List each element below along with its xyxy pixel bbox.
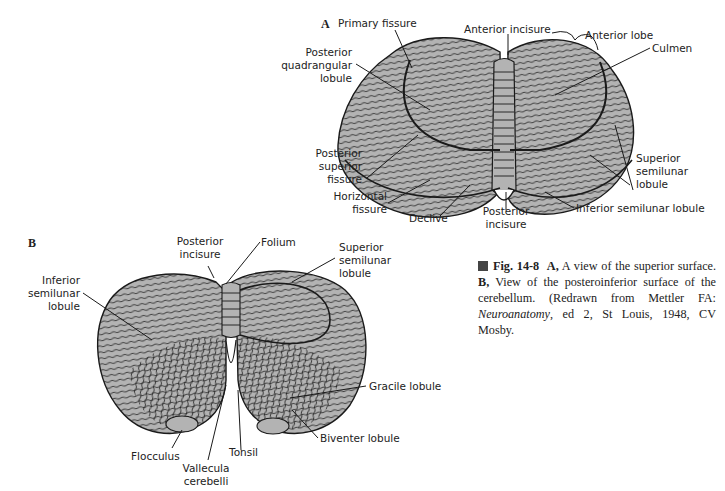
- caption-a-text: A view of the superior surface.: [559, 259, 716, 273]
- label-inferior-semilunar-lobule-a: Inferior semilunar lobule: [576, 202, 705, 215]
- caption-fig-label: Fig. 14-8: [493, 259, 539, 273]
- caption-marker-icon: [478, 261, 488, 271]
- caption-book-title: Neuroanatomy: [478, 307, 550, 321]
- caption-b-label: B,: [478, 275, 489, 289]
- caption-b-text: View of the posteroinferior surface of t…: [478, 275, 716, 305]
- label-posterior-quadrangular-lobule: Posterior quadrangular lobule: [278, 46, 352, 85]
- label-anterior-lobe: Anterior lobe: [585, 29, 653, 42]
- label-inferior-semilunar-lobule-b: Inferior semilunar lobule: [20, 274, 80, 313]
- label-folium: Folium: [261, 236, 296, 249]
- label-biventer-lobule: Biventer lobule: [320, 432, 400, 445]
- label-vallecula-cerebelli: Vallecula cerebelli: [176, 462, 236, 488]
- label-posterior-incisure-b: Posterior incisure: [172, 235, 228, 261]
- cerebellum-posteroinferior-view: [98, 271, 366, 434]
- label-tonsil: Tonsil: [229, 446, 258, 459]
- label-culmen: Culmen: [652, 42, 692, 55]
- figure-caption: Fig. 14-8 A, A view of the superior surf…: [478, 258, 716, 338]
- label-primary-fissure: Primary fissure: [338, 17, 417, 30]
- label-superior-semilunar-lobule-b: Superior semilunar lobule: [339, 241, 391, 280]
- label-anterior-incisure: Anterior incisure: [464, 23, 551, 36]
- panel-a-letter: A: [321, 17, 330, 32]
- label-flocculus: Flocculus: [131, 450, 180, 463]
- label-declive: Declive: [409, 212, 448, 225]
- panel-b-letter: B: [28, 236, 36, 251]
- label-superior-semilunar-lobule-a: Superior semilunar lobule: [636, 152, 688, 191]
- label-posterior-incisure-a: Posterior incisure: [478, 205, 534, 231]
- caption-a-label: A,: [547, 259, 559, 273]
- label-posterior-superior-fissure: Posterior superior fissure: [300, 147, 362, 186]
- label-horizontal-fissure: Horizontal fissure: [320, 190, 387, 216]
- label-gracile-lobule: Gracile lobule: [369, 380, 441, 393]
